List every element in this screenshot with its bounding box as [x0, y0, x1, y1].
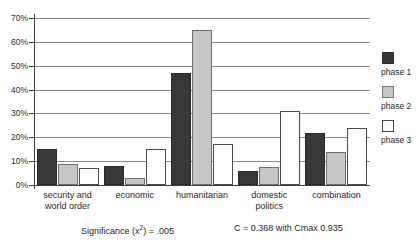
category-label: humanitarian [168, 190, 235, 201]
category-label-line: politics [236, 201, 303, 212]
bar-group [37, 18, 99, 185]
category-label-line: security and [34, 190, 101, 201]
legend-item[interactable]: phase 3 [382, 120, 419, 154]
category-label-line: domestic [236, 190, 303, 201]
bar[interactable] [37, 149, 57, 185]
significance-prefix: Significance (x [81, 226, 140, 236]
y-tick-label-10%: 10% [2, 157, 28, 166]
y-tick-label-50%: 50% [2, 62, 28, 71]
bar[interactable] [238, 171, 258, 185]
category-label-line: world order [34, 201, 101, 212]
bar[interactable] [171, 73, 191, 185]
legend-label: phase 2 [381, 101, 411, 111]
bar[interactable] [305, 133, 325, 185]
chart-legend: phase 1phase 2phase 3 [382, 52, 419, 154]
category-label-line: economic [101, 190, 168, 201]
y-tick-label-30%: 30% [2, 109, 28, 118]
significance-annotation: Significance (x2) = .005 [81, 222, 174, 237]
bar-group [171, 18, 233, 185]
category-label: security andworld order [34, 190, 101, 212]
x-axis-baseline [34, 185, 370, 186]
chart-footer: Significance (x2) = .005 C = 0.368 with … [0, 222, 419, 238]
bar[interactable] [192, 30, 212, 185]
category-label: combination [303, 190, 370, 201]
bar[interactable] [58, 164, 78, 185]
bar[interactable] [259, 167, 279, 185]
bar[interactable] [79, 168, 99, 185]
legend-item[interactable]: phase 2 [382, 86, 419, 120]
y-axis-tick-labels: 0%10%20%30%40%50%60%70% [0, 0, 28, 243]
y-tick-label-40%: 40% [2, 86, 28, 95]
bar-group [305, 18, 367, 185]
category-label: domesticpolitics [236, 190, 303, 212]
bar[interactable] [125, 178, 145, 185]
white-swatch [382, 120, 394, 132]
legend-label: phase 1 [381, 67, 411, 77]
bar-chart-figure: 0%10%20%30%40%50%60%70% security andworl… [0, 0, 419, 243]
bar[interactable] [104, 166, 124, 185]
y-tick-label-70%: 70% [2, 14, 28, 23]
contingency-annotation: C = 0.368 with Cmax 0.935 [234, 222, 343, 234]
category-label: economic [101, 190, 168, 201]
bar[interactable] [347, 128, 367, 185]
y-tick-label-20%: 20% [2, 133, 28, 142]
bar[interactable] [326, 152, 346, 185]
bar[interactable] [213, 144, 233, 185]
bar-group [104, 18, 166, 185]
category-label-line: combination [303, 190, 370, 201]
gray-swatch [382, 86, 394, 98]
dark-swatch [382, 52, 394, 64]
y-tick-label-0%: 0% [2, 181, 28, 190]
legend-item[interactable]: phase 1 [382, 52, 419, 86]
bar-group [238, 18, 300, 185]
bars-layer [34, 18, 370, 185]
category-label-line: humanitarian [168, 190, 235, 201]
legend-label: phase 3 [381, 135, 411, 145]
y-tick-label-60%: 60% [2, 38, 28, 47]
bar[interactable] [280, 111, 300, 185]
bar[interactable] [146, 149, 166, 185]
significance-suffix: ) = .005 [143, 226, 174, 236]
